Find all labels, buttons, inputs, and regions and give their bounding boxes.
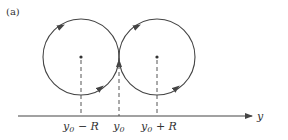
panel-label: (a) xyxy=(6,6,20,17)
tick-label-y0: y0 xyxy=(112,120,124,134)
right-center-dot xyxy=(155,55,158,58)
tick-label-y0-plus-r: y0 + R xyxy=(140,120,177,134)
tick-label-y0-minus-r: y0 − R xyxy=(62,120,99,134)
axis-label: y xyxy=(256,110,264,123)
diagram-canvas: (a) y y0 − R y0 y0 + R xyxy=(0,0,288,140)
left-center-dot xyxy=(79,55,82,58)
